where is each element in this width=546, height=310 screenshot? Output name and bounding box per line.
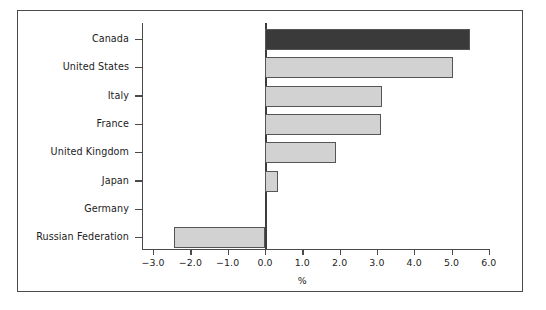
- x-axis-tick-label: −3.0: [133, 257, 173, 268]
- x-axis-tick: [302, 249, 303, 255]
- y-axis-tick: [135, 237, 142, 238]
- bar-canada: [265, 29, 470, 50]
- bar-row: [18, 86, 522, 107]
- y-axis-label-russian-federation: Russian Federation: [36, 231, 129, 242]
- x-axis-tick: [377, 249, 378, 255]
- x-axis-tick: [414, 249, 415, 255]
- y-axis-label-united-states: United States: [63, 61, 129, 72]
- x-axis-tick-label: 0.0: [245, 257, 285, 268]
- x-axis-line: [142, 249, 489, 250]
- x-axis-tick: [265, 249, 266, 255]
- y-axis-tick: [135, 39, 142, 40]
- bar-united-kingdom: [265, 142, 336, 163]
- x-axis-tick: [190, 249, 191, 255]
- y-axis-label-canada: Canada: [92, 33, 129, 44]
- bar-japan: [265, 171, 278, 192]
- figure-caption: [19, 296, 539, 310]
- bar-russian-federation: [174, 227, 265, 248]
- x-axis-tick: [153, 249, 154, 255]
- bar-row: [18, 171, 522, 192]
- y-axis-label-italy: Italy: [108, 90, 129, 101]
- x-axis-tick: [340, 249, 341, 255]
- y-axis-tick: [135, 180, 142, 181]
- bar-united-states: [265, 57, 453, 78]
- bar-france: [265, 114, 381, 135]
- y-axis-label-germany: Germany: [84, 203, 129, 214]
- y-axis-tick: [135, 67, 142, 68]
- x-axis-tick-label: −2.0: [170, 257, 210, 268]
- bar-chart-plot-area: CanadaUnited StatesItalyFranceUnited Kin…: [18, 11, 522, 291]
- x-axis-tick: [228, 249, 229, 255]
- y-axis-label-united-kingdom: United Kingdom: [51, 146, 129, 157]
- x-axis-tick-label: 2.0: [320, 257, 360, 268]
- y-axis-tick: [135, 124, 142, 125]
- bar-row: [18, 114, 522, 135]
- x-axis-tick-label: 6.0: [469, 257, 509, 268]
- y-axis-label-japan: Japan: [102, 175, 129, 186]
- y-axis-label-france: France: [96, 118, 129, 129]
- y-axis-tick: [135, 95, 142, 96]
- x-axis-tick-label: 5.0: [432, 257, 472, 268]
- y-axis-tick: [135, 209, 142, 210]
- x-axis-tick-label: 1.0: [282, 257, 322, 268]
- bar-italy: [265, 86, 382, 107]
- x-axis-tick-label: 4.0: [394, 257, 434, 268]
- x-axis-tick: [489, 249, 490, 255]
- x-axis-title: %: [272, 275, 332, 286]
- x-axis-tick-label: 3.0: [357, 257, 397, 268]
- x-axis-tick-label: −1.0: [208, 257, 248, 268]
- figure-frame: CanadaUnited StatesItalyFranceUnited Kin…: [17, 10, 523, 292]
- y-axis-tick: [135, 152, 142, 153]
- x-axis-tick: [452, 249, 453, 255]
